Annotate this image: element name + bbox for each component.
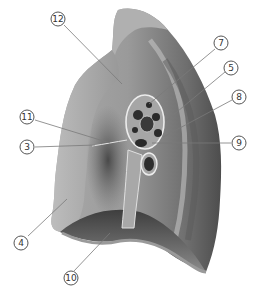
pulmonary-vein-upper bbox=[135, 139, 147, 147]
vessel-right bbox=[152, 113, 160, 121]
vessel-upper bbox=[146, 102, 152, 108]
bronchial-vessel bbox=[132, 127, 138, 133]
callout-10: 10 bbox=[64, 271, 79, 286]
callout-3: 3 bbox=[20, 140, 35, 155]
cardiac-impression bbox=[86, 105, 130, 215]
callout-5: 5 bbox=[224, 61, 239, 76]
callout-7: 7 bbox=[214, 36, 229, 51]
callout-4: 4 bbox=[14, 236, 29, 251]
main-bronchus bbox=[140, 116, 154, 132]
inferior-pulmonary-vein bbox=[144, 157, 154, 171]
callout-11: 11 bbox=[20, 110, 35, 125]
vessel-right-lower bbox=[154, 129, 162, 137]
callout-9: 9 bbox=[232, 136, 247, 151]
callout-12: 12 bbox=[51, 12, 66, 27]
callout-8: 8 bbox=[232, 90, 247, 105]
